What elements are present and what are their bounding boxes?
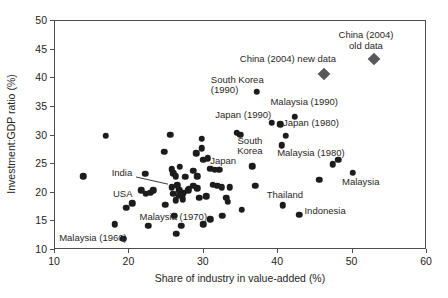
country-label: China (2004) new data [240, 54, 336, 65]
scatter-dot [249, 163, 256, 170]
scatter-dot [129, 200, 136, 207]
y-tick-label: 45 [27, 43, 47, 55]
y-tick [50, 220, 54, 221]
scatter-dot [196, 195, 203, 202]
country-label: Japan [210, 155, 236, 166]
x-tick-label: 60 [420, 255, 432, 267]
scatter-dot [172, 173, 179, 180]
scatter-dot [161, 148, 168, 155]
scatter-chart: Investment:GDP ratio (%) Share of indust… [0, 0, 448, 298]
y-tick-label: 35 [27, 100, 47, 112]
scatter-dot [224, 199, 231, 206]
scatter-dot [238, 207, 245, 214]
y-tick [50, 135, 54, 136]
scatter-dot [296, 211, 303, 218]
country-label: Malaysia (1960) [59, 233, 127, 244]
scatter-dot [219, 212, 226, 219]
x-tick-label: 40 [271, 255, 283, 267]
scatter-dot [172, 197, 179, 204]
y-axis-title: Investment:GDP ratio (%) [5, 54, 17, 214]
country-label: Japan (1980) [283, 118, 339, 129]
y-tick [50, 49, 54, 50]
y-tick-label: 40 [27, 71, 47, 83]
scatter-dot [252, 183, 259, 190]
x-tick-label: 50 [346, 255, 358, 267]
scatter-dot [102, 132, 109, 139]
country-label: Malaysia [342, 177, 380, 188]
y-tick-label: 30 [27, 129, 47, 141]
x-tick [277, 249, 278, 253]
x-axis-title: Share of industry in value-added (%) [112, 272, 368, 284]
country-label: Indonesia [304, 206, 345, 217]
scatter-dot [216, 167, 223, 174]
y-tick [50, 77, 54, 78]
scatter-dot [173, 231, 180, 238]
country-label: Malaysia (1970) [139, 212, 207, 223]
country-label: South Korea [237, 135, 262, 156]
x-tick [203, 249, 204, 253]
scatter-dot [177, 164, 184, 171]
y-tick [50, 163, 54, 164]
scatter-dot [279, 202, 286, 209]
scatter-dot [282, 132, 289, 139]
scatter-dot [203, 193, 210, 200]
scatter-dot [182, 173, 189, 180]
y-tick [50, 249, 54, 250]
y-tick-label: 20 [27, 186, 47, 198]
y-tick-label: 15 [27, 214, 47, 226]
y-tick [50, 192, 54, 193]
scatter-dot [162, 202, 169, 209]
y-tick-label: 10 [27, 243, 47, 255]
china-diamond-marker [317, 68, 330, 81]
scatter-dot [145, 223, 152, 230]
y-tick [50, 106, 54, 107]
scatter-dot [180, 196, 187, 203]
scatter-dot [194, 173, 201, 180]
x-tick [128, 249, 129, 253]
scatter-dot [193, 150, 200, 157]
country-label: India [112, 168, 133, 179]
y-tick-label: 25 [27, 157, 47, 169]
country-label: Thailand [267, 190, 303, 201]
scatter-dot [194, 185, 201, 192]
x-tick-label: 20 [123, 255, 135, 267]
scatter-dot [207, 216, 214, 223]
scatter-dot [218, 184, 225, 191]
country-label: USA [113, 189, 133, 200]
x-tick [54, 249, 55, 253]
y-tick-label: 50 [27, 14, 47, 26]
y-tick [50, 20, 54, 21]
scatter-dot [142, 171, 149, 178]
country-label: Malaysia (1980) [277, 148, 345, 159]
china-diamond-marker [368, 53, 381, 66]
country-label: South Korea (1990) [211, 74, 264, 95]
country-label: China (2004) old data [336, 30, 395, 51]
country-label: Japan (1990) [215, 110, 271, 121]
x-tick [426, 249, 427, 253]
plot-area: China (2004) old dataChina (2004) new da… [54, 20, 426, 249]
scatter-dot [150, 187, 157, 194]
scatter-dot [111, 221, 118, 228]
country-label: Malaysia (1990) [270, 97, 338, 108]
scatter-dot [167, 132, 174, 139]
scatter-dot [227, 184, 234, 191]
x-tick [352, 249, 353, 253]
scatter-dot [178, 223, 185, 230]
scatter-dot [80, 173, 87, 180]
x-tick-label: 30 [197, 255, 209, 267]
scatter-dot [316, 176, 323, 183]
scatter-dot [198, 136, 205, 143]
x-tick-label: 10 [48, 255, 60, 267]
